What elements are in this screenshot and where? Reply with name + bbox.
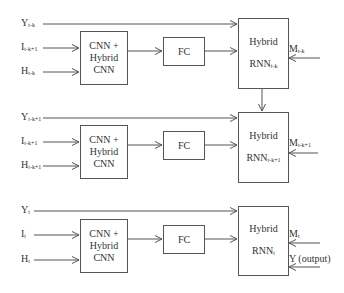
cnn-label: CNN bbox=[93, 158, 114, 170]
rnn-name: RNNt-k bbox=[250, 58, 278, 72]
rnn-block-row2: Hybrid RNNt-k+1 bbox=[238, 112, 289, 183]
rnn-label: Hybrid bbox=[249, 130, 277, 142]
cnn-label: Hybrid bbox=[90, 240, 118, 252]
rnn-name: RNNt bbox=[252, 245, 275, 259]
input-y-label-row2: Yt-k+1 bbox=[21, 112, 41, 124]
fc-block-row3: FC bbox=[163, 225, 205, 254]
m-label-row3: Mt bbox=[289, 229, 300, 241]
cnn-label: Hybrid bbox=[90, 146, 118, 158]
input-h-label-row2: Ht-k+1 bbox=[21, 160, 41, 172]
rnn-block-row3: Hybrid RNNt bbox=[238, 206, 289, 276]
fc-label: FC bbox=[178, 140, 190, 152]
input-y-label-row3: Yt bbox=[21, 205, 30, 217]
cnn-label: CNN bbox=[93, 252, 114, 264]
input-h-label-row3: Ht bbox=[21, 254, 30, 266]
cnn-label: CNN + bbox=[89, 228, 118, 240]
input-i-label-row3: It bbox=[21, 229, 26, 241]
rnn-label: Hybrid bbox=[249, 223, 277, 235]
m-label-row2: Mt-k+1 bbox=[289, 138, 311, 150]
fc-block-row1: FC bbox=[163, 37, 205, 66]
input-h-label-row1: Ht-k bbox=[21, 66, 35, 78]
rnn-name: RNNt-k+1 bbox=[246, 152, 280, 166]
input-y-label-row1: Yt-k bbox=[21, 18, 35, 30]
cnn-label: CNN + bbox=[89, 40, 118, 52]
output-label: Y (output) bbox=[289, 254, 331, 264]
fc-label: FC bbox=[178, 234, 190, 246]
rnn-block-row1: Hybrid RNNt-k bbox=[238, 18, 289, 89]
cnn-label: CNN bbox=[93, 64, 114, 76]
m-label-row1: Mt-k bbox=[289, 44, 305, 56]
fc-label: FC bbox=[178, 46, 190, 58]
cnn-block-row1: CNN + Hybrid CNN bbox=[80, 31, 128, 85]
input-i-label-row2: It-k+1 bbox=[21, 136, 37, 148]
cnn-label: CNN + bbox=[89, 134, 118, 146]
fc-block-row2: FC bbox=[163, 131, 205, 160]
input-i-label-row1: It-k+1 bbox=[21, 42, 37, 54]
cnn-label: Hybrid bbox=[90, 52, 118, 64]
cnn-block-row2: CNN + Hybrid CNN bbox=[80, 125, 128, 179]
cnn-block-row3: CNN + Hybrid CNN bbox=[80, 219, 128, 273]
rnn-label: Hybrid bbox=[249, 36, 277, 48]
